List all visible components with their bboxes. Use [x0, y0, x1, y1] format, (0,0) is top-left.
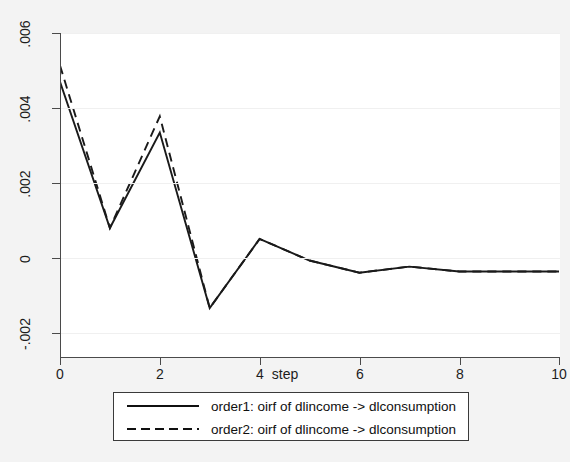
x-axis-line [60, 357, 560, 358]
solid-line-key [127, 399, 199, 413]
plot-area [60, 33, 560, 358]
x-tick-8 [460, 358, 461, 365]
gridline-004 [60, 108, 560, 109]
x-tick-0 [60, 358, 61, 365]
legend-label-order1: order1: oirf of dlincome -> dlconsumptio… [211, 399, 456, 414]
x-tick-2 [160, 358, 161, 365]
legend-item-order1: order1: oirf of dlincome -> dlconsumptio… [114, 394, 468, 418]
y-tick-label-006: .006 [17, 6, 33, 62]
x-tick-6 [360, 358, 361, 365]
legend-item-order2: order2: oirf of dlincome -> dlconsumptio… [114, 417, 468, 441]
y-tick-label-004: .004 [17, 81, 33, 137]
x-tick-10 [559, 358, 560, 365]
dashed-line-key [127, 422, 199, 436]
gridline-006 [60, 33, 560, 34]
y-tick-004 [52, 108, 60, 109]
gridline-0 [60, 258, 560, 259]
gridline-neg002 [60, 333, 560, 334]
y-tick-0 [52, 258, 60, 259]
series-lines [60, 33, 560, 358]
y-axis-line [60, 33, 61, 358]
legend: order1: oirf of dlincome -> dlconsumptio… [113, 392, 469, 441]
y-tick-label-0: 0 [17, 231, 33, 287]
x-tick-4 [260, 358, 261, 365]
y-tick-002 [52, 183, 60, 184]
y-tick-label-neg002: -.002 [17, 306, 33, 362]
x-axis-title: step [0, 366, 570, 382]
irf-chart-figure: .006 .004 .002 0 -.002 0 2 4 6 8 10 step… [0, 0, 570, 462]
legend-label-order2: order2: oirf of dlincome -> dlconsumptio… [211, 422, 456, 437]
series-line-order1 [60, 82, 559, 308]
y-tick-label-002: .002 [17, 156, 33, 212]
y-tick-006 [52, 33, 60, 34]
gridline-002 [60, 183, 560, 184]
y-tick-neg002 [52, 333, 60, 334]
